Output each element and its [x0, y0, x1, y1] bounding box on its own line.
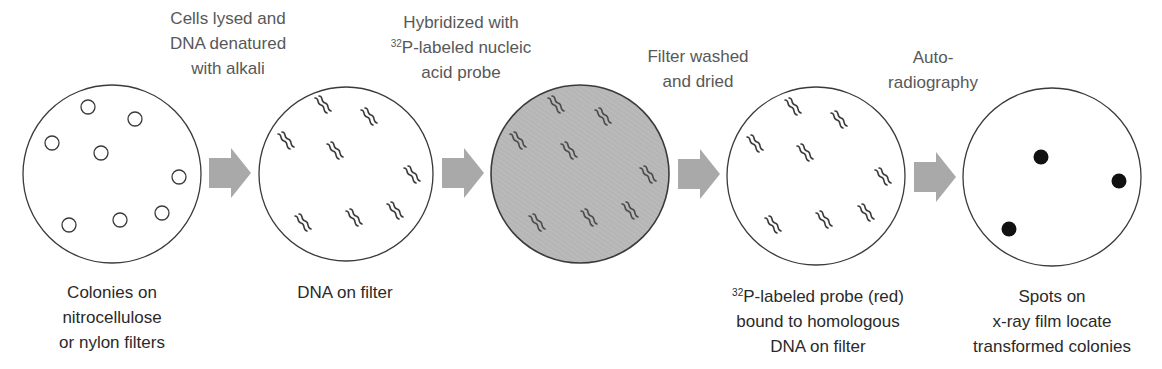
label-line: DNA denatured — [170, 31, 286, 56]
caption-line: 32P-labeled probe (red) — [732, 284, 904, 309]
film-spot-icon — [1112, 174, 1127, 189]
caption-probe-bound: 32P-labeled probe (red) bound to homolog… — [732, 284, 904, 359]
caption-dna-on-filter: DNA on filter — [297, 280, 392, 305]
caption-line: nitrocellulose — [59, 305, 165, 330]
caption-line: DNA on filter — [297, 280, 392, 305]
caption-line: transformed colonies — [973, 334, 1131, 359]
step-label-hybridize: Hybridized with 32P-labeled nucleic acid… — [391, 10, 532, 85]
xray-film — [963, 88, 1141, 266]
filter-dna — [259, 87, 433, 261]
label-line: Hybridized with — [391, 10, 532, 35]
caption-line: x-ray film locate — [973, 309, 1131, 334]
caption-colonies-on-filter: Colonies on nitrocellulose or nylon filt… — [59, 280, 165, 355]
caption-line: or nylon filters — [59, 330, 165, 355]
label-line: 32P-labeled nucleic — [391, 35, 532, 60]
step-label-autoradiography: Auto- radiography — [888, 45, 978, 95]
step-label-wash-dry: Filter washed and dried — [647, 44, 748, 94]
caption-line: DNA on filter — [732, 334, 904, 359]
filter-hybridized — [491, 85, 669, 263]
label-line: with alkali — [170, 56, 286, 81]
caption-line: Spots on — [973, 284, 1131, 309]
label-line: Cells lysed and — [170, 6, 286, 31]
filter-disc — [23, 85, 201, 263]
filter-washed — [727, 87, 905, 265]
film-spot-icon — [1034, 150, 1049, 165]
label-line: Auto- — [888, 45, 978, 70]
process-arrow-icon — [442, 148, 484, 198]
filter-disc — [491, 85, 669, 263]
caption-line: bound to homologous — [732, 309, 904, 334]
caption-spots-on-film: Spots on x-ray film locate transformed c… — [973, 284, 1131, 359]
process-arrow-icon — [678, 149, 720, 199]
caption-line: Colonies on — [59, 280, 165, 305]
film-spot-icon — [1002, 222, 1017, 237]
step-label-lyse-denature: Cells lysed and DNA denatured with alkal… — [170, 6, 286, 81]
label-line: Filter washed — [647, 44, 748, 69]
filter-colonies — [23, 85, 201, 263]
label-line: radiography — [888, 70, 978, 95]
isotope-superscript: 32 — [391, 38, 402, 49]
label-line: and dried — [647, 69, 748, 94]
label-line: acid probe — [391, 60, 532, 85]
process-arrow-icon — [209, 148, 251, 198]
filter-disc — [259, 87, 433, 261]
process-arrow-icon — [914, 152, 956, 202]
isotope-superscript: 32 — [732, 287, 743, 298]
